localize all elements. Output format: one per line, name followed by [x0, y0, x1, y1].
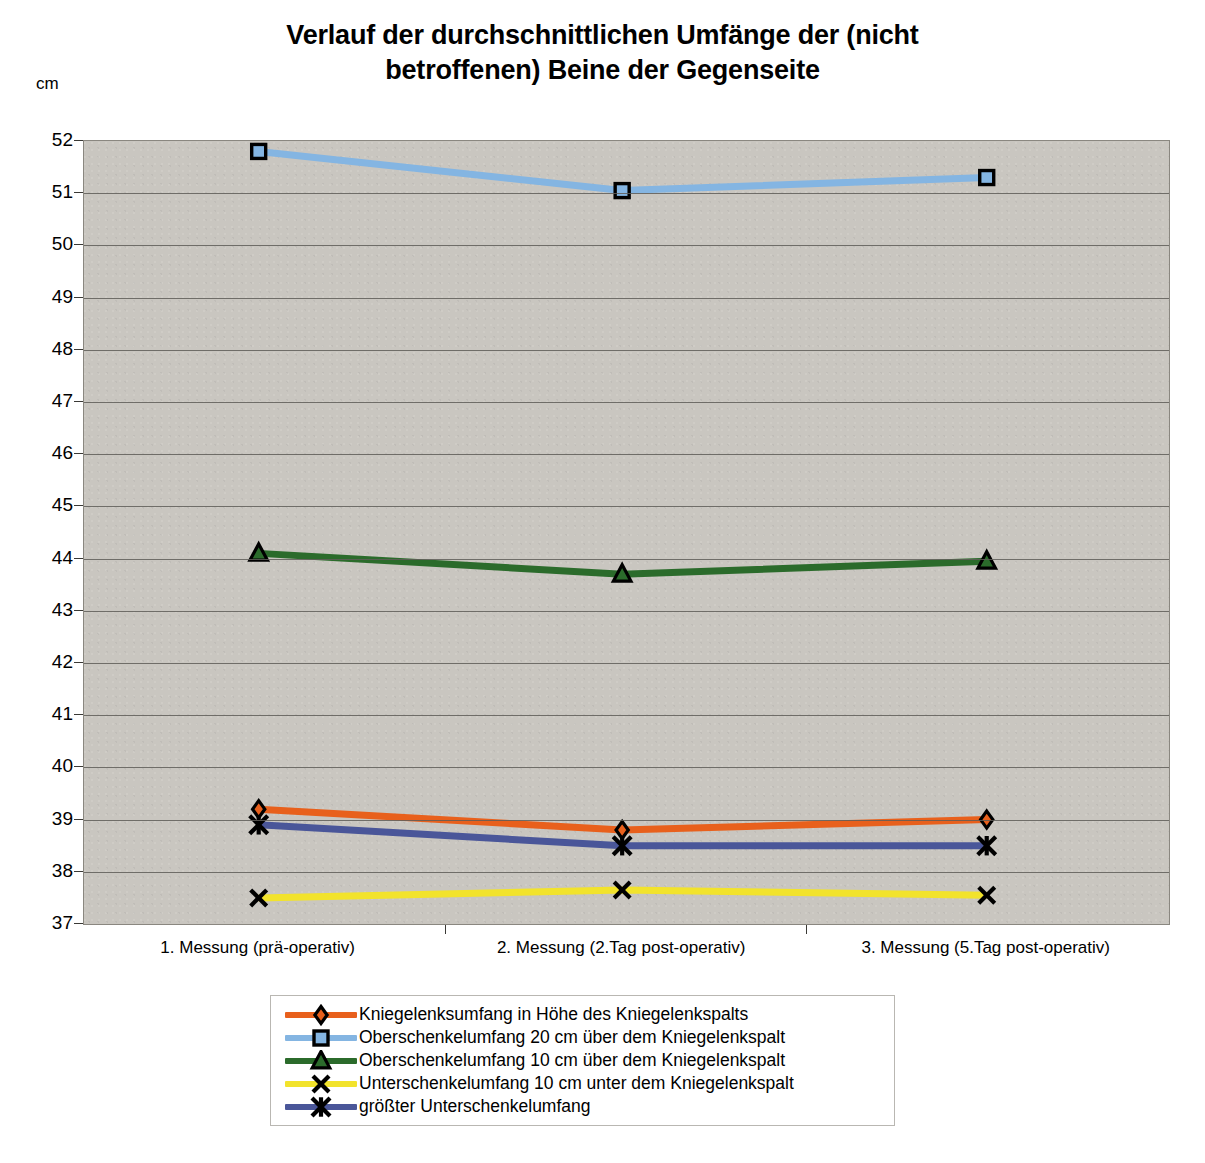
- chart-title: Verlauf der durchschnittlichen Umfänge d…: [120, 18, 1085, 87]
- x-tick-label-2: 2. Messung (2.Tag post-operativ): [497, 938, 746, 958]
- y-tick-mark-50: [74, 244, 83, 245]
- legend-label-4: Unterschenkelumfang 10 cm unter dem Knie…: [359, 1075, 794, 1093]
- y-tick-mark-43: [74, 610, 83, 611]
- y-tick-mark-40: [74, 766, 83, 767]
- y-tick-label-37: 37: [27, 912, 73, 934]
- series-markers-2: [252, 144, 994, 197]
- gridline-46: [84, 454, 1169, 455]
- y-tick-label-41: 41: [27, 703, 73, 725]
- x-tick-mark-3: [806, 925, 807, 934]
- y-tick-label-43: 43: [27, 599, 73, 621]
- y-tick-label-48: 48: [27, 338, 73, 360]
- legend-item-3[interactable]: Oberschenkelumfang 10 cm über dem Kniege…: [271, 1049, 894, 1072]
- gridline-39: [84, 820, 1169, 821]
- gridline-50: [84, 245, 1169, 246]
- legend-item-1[interactable]: Kniegelenksumfang in Höhe des Kniegelenk…: [271, 1003, 894, 1026]
- data-point-triangle: [613, 565, 630, 581]
- y-tick-mark-46: [74, 453, 83, 454]
- series-layer: [84, 141, 1169, 924]
- legend-item-4[interactable]: Unterschenkelumfang 10 cm unter dem Knie…: [271, 1072, 894, 1095]
- y-tick-label-51: 51: [27, 181, 73, 203]
- chart-legend: Kniegelenksumfang in Höhe des Kniegelenk…: [270, 995, 895, 1126]
- gridline-42: [84, 663, 1169, 664]
- y-tick-label-45: 45: [27, 494, 73, 516]
- gridline-41: [84, 715, 1169, 716]
- y-tick-mark-48: [74, 349, 83, 350]
- legend-marker-x-icon: [307, 1073, 335, 1095]
- gridline-44: [84, 559, 1169, 560]
- y-tick-mark-41: [74, 714, 83, 715]
- plot-area: [83, 140, 1170, 925]
- legend-label-1: Kniegelenksumfang in Höhe des Kniegelenk…: [359, 1006, 748, 1024]
- legend-label-5: größter Unterschenkelumfang: [359, 1098, 591, 1116]
- y-tick-mark-49: [74, 297, 83, 298]
- y-tick-mark-38: [74, 871, 83, 872]
- data-point-diamond: [315, 1006, 327, 1023]
- legend-marker-triangle-icon: [307, 1050, 335, 1072]
- gridline-38: [84, 872, 1169, 873]
- y-tick-label-44: 44: [27, 547, 73, 569]
- data-point-square: [980, 171, 994, 185]
- legend-item-5[interactable]: größter Unterschenkelumfang: [271, 1095, 894, 1118]
- legend-swatch-diamond-icon: [283, 1004, 359, 1026]
- y-axis-unit-label: cm: [36, 74, 59, 94]
- y-tick-label-50: 50: [27, 233, 73, 255]
- legend-swatch-square-icon: [283, 1027, 359, 1049]
- x-tick-mark-2: [445, 925, 446, 934]
- legend-label-3: Oberschenkelumfang 10 cm über dem Kniege…: [359, 1052, 785, 1070]
- chart-title-line-1: Verlauf der durchschnittlichen Umfänge d…: [120, 18, 1085, 53]
- y-tick-label-38: 38: [27, 860, 73, 882]
- y-tick-label-49: 49: [27, 286, 73, 308]
- y-tick-label-42: 42: [27, 651, 73, 673]
- y-tick-mark-47: [74, 401, 83, 402]
- y-tick-label-52: 52: [27, 129, 73, 151]
- legend-swatch-triangle-icon: [283, 1050, 359, 1072]
- y-tick-mark-37: [74, 923, 83, 924]
- legend-marker-square-icon: [307, 1027, 335, 1049]
- y-tick-mark-44: [74, 558, 83, 559]
- y-axis-tick-labels: 52515049484746454443424140393837: [20, 140, 73, 925]
- y-axis-tick-marks: [74, 140, 83, 925]
- chart-title-line-2: betroffenen) Beine der Gegenseite: [120, 53, 1085, 88]
- data-point-square: [314, 1031, 328, 1045]
- x-tick-label-3: 3. Messung (5.Tag post-operativ): [861, 938, 1110, 958]
- legend-label-2: Oberschenkelumfang 20 cm über dem Kniege…: [359, 1029, 785, 1047]
- data-point-square: [615, 184, 629, 198]
- data-point-star: [312, 1097, 330, 1116]
- y-tick-label-39: 39: [27, 808, 73, 830]
- y-tick-label-46: 46: [27, 442, 73, 464]
- chart-root: Verlauf der durchschnittlichen Umfänge d…: [0, 0, 1205, 1163]
- gridline-49: [84, 298, 1169, 299]
- legend-marker-diamond-icon: [307, 1004, 335, 1026]
- x-tick-label-1: 1. Messung (prä-operativ): [160, 938, 355, 958]
- gridline-40: [84, 767, 1169, 768]
- legend-swatch-star-icon: [283, 1096, 359, 1118]
- legend-swatch-x-icon: [283, 1073, 359, 1095]
- gridline-51: [84, 193, 1169, 194]
- y-tick-label-40: 40: [27, 755, 73, 777]
- y-tick-mark-45: [74, 505, 83, 506]
- data-point-x: [313, 1076, 329, 1092]
- gridline-48: [84, 350, 1169, 351]
- gridline-45: [84, 506, 1169, 507]
- gridline-47: [84, 402, 1169, 403]
- legend-item-2[interactable]: Oberschenkelumfang 20 cm über dem Kniege…: [271, 1026, 894, 1049]
- data-point-triangle: [978, 552, 995, 568]
- legend-marker-star-icon: [307, 1096, 335, 1118]
- y-tick-label-47: 47: [27, 390, 73, 412]
- y-tick-mark-42: [74, 662, 83, 663]
- y-tick-mark-39: [74, 819, 83, 820]
- data-point-square: [252, 144, 266, 158]
- gridline-43: [84, 611, 1169, 612]
- y-tick-mark-51: [74, 192, 83, 193]
- y-tick-mark-52: [74, 140, 83, 141]
- data-point-triangle: [312, 1051, 329, 1067]
